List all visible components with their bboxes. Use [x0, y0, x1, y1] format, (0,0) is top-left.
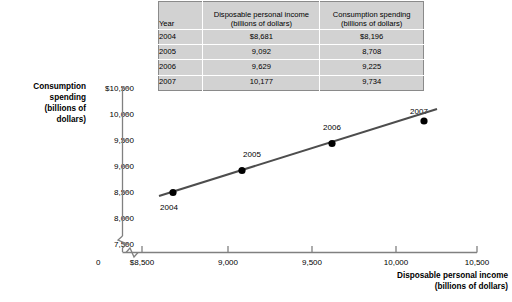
data-point-2005 — [238, 167, 245, 174]
data-point-2007 — [420, 117, 427, 124]
data-point-2004 — [169, 189, 176, 196]
data-point-2006 — [328, 140, 335, 147]
consumption-function-chart: Consumption spending (billions of dollar… — [0, 0, 512, 302]
plot-canvas — [0, 0, 512, 302]
consumption-function-line — [159, 109, 437, 196]
